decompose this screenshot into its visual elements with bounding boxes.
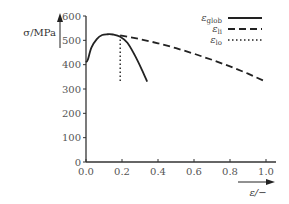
y-tick-label: 600: [62, 11, 81, 22]
x-tick-label: 0.8: [222, 166, 238, 177]
y-tick-label: 200: [62, 108, 81, 119]
x-arrow-icon: [266, 179, 275, 185]
series-li: [120, 35, 266, 81]
y-tick-label: 400: [62, 59, 81, 70]
axes: 01002003004005006000.00.20.40.60.81.0σ/M…: [23, 11, 276, 199]
series-group: [86, 34, 266, 82]
legend: εglobεliεlo: [201, 12, 262, 47]
x-tick-label: 0.2: [114, 166, 130, 177]
x-tick-label: 0.0: [78, 166, 94, 177]
series-glob: [86, 34, 147, 82]
stress-strain-chart: 01002003004005006000.00.20.40.60.81.0σ/M…: [0, 0, 289, 204]
y-tick-label: 100: [62, 132, 81, 143]
x-tick-label: 0.4: [150, 166, 166, 177]
y-axis-label: σ/MPa: [23, 27, 56, 38]
x-axis-label: ε/−: [249, 187, 266, 198]
y-tick-label: 300: [62, 84, 81, 95]
y-tick-label: 500: [62, 35, 81, 46]
x-tick-label: 1.0: [258, 166, 274, 177]
x-tick-label: 0.6: [186, 166, 202, 177]
